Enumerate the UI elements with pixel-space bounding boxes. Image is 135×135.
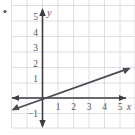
x-axis bbox=[12, 95, 126, 101]
x-tick-label-3: 3 bbox=[87, 102, 92, 112]
plotted-line-arrow-left-icon bbox=[12, 104, 20, 110]
graph-svg: 5 4 3 2 1 −1 1 2 3 4 5 y x bbox=[0, 0, 135, 135]
coordinate-plane-figure: 5 4 3 2 1 −1 1 2 3 4 5 y x bbox=[0, 0, 135, 135]
y-tick-label-3: 3 bbox=[33, 43, 38, 53]
x-tick-label-5: 5 bbox=[118, 102, 123, 112]
y-axis-arrow-down-icon bbox=[39, 120, 45, 128]
x-tick-label-4: 4 bbox=[102, 102, 107, 112]
bullet-marker-icon bbox=[3, 10, 6, 13]
y-tick-label-4: 4 bbox=[33, 28, 38, 38]
y-tick-label-2: 2 bbox=[33, 59, 38, 69]
x-axis-label: x bbox=[126, 101, 132, 112]
plotted-line-arrow-right-icon bbox=[123, 68, 131, 74]
y-axis-arrow-up-icon bbox=[39, 8, 45, 16]
y-tick-label-1: 1 bbox=[33, 74, 38, 84]
y-axis bbox=[39, 8, 45, 128]
y-tick-label-5: 5 bbox=[33, 12, 38, 22]
x-axis-arrow-left-icon bbox=[12, 95, 19, 101]
y-tick-label-neg1: −1 bbox=[28, 109, 38, 119]
y-axis-label: y bbox=[46, 7, 52, 18]
x-axis-arrow-right-icon bbox=[119, 95, 126, 101]
x-tick-label-1: 1 bbox=[56, 102, 61, 112]
x-tick-label-2: 2 bbox=[71, 102, 76, 112]
